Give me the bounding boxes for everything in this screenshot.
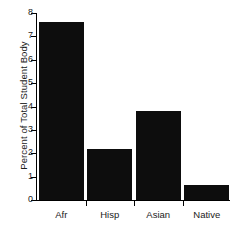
bars-group (36, 13, 230, 200)
y-axis-title: Percent of Total Student Body (18, 21, 29, 191)
x-tick-label: Afr (55, 209, 67, 220)
x-tick-mark (134, 201, 135, 206)
y-tick-label: 8 (28, 7, 33, 18)
y-tick-label: 5 (28, 77, 33, 88)
x-tick-label: Asian (146, 209, 170, 220)
bar (136, 111, 181, 200)
x-tick-mark (86, 201, 87, 206)
y-tick-label: 4 (28, 101, 33, 112)
x-axis-ticks: AfrHispAsianNative (36, 201, 230, 225)
x-tick-label: Native (193, 209, 220, 220)
bar-chart: Percent of Total Student Body 012345678 … (0, 0, 232, 225)
y-tick-label: 1 (28, 171, 33, 182)
y-tick-label: 0 (28, 194, 33, 205)
bar (87, 149, 132, 200)
y-tick-label: 3 (28, 124, 33, 135)
y-tick-label: 7 (28, 30, 33, 41)
x-tick-mark (183, 201, 184, 206)
bar (184, 185, 229, 200)
x-tick-label: Hisp (100, 209, 119, 220)
y-tick-label: 6 (28, 54, 33, 65)
bar (39, 22, 84, 200)
y-tick-label: 2 (28, 147, 33, 158)
